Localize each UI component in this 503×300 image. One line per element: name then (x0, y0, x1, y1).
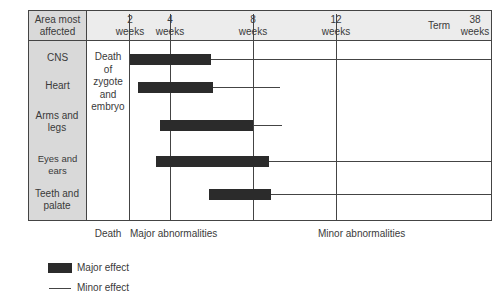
death-line: embryo (87, 101, 129, 114)
week-2-number: 2 (114, 14, 146, 26)
area-column-divider (86, 10, 87, 221)
legend-minor-label: Minor effect (77, 282, 129, 294)
week-12-unit: weeks (320, 26, 352, 38)
area-label-eyes-ears: Eyes and ears (29, 153, 86, 177)
week-4-line (170, 14, 171, 221)
area-text: Eyes and ears (38, 153, 78, 176)
area-text: Arms and legs (36, 110, 79, 133)
area-text: CNS (47, 52, 68, 63)
legend-major-text: Major effect (77, 262, 129, 273)
term-label: Term (424, 20, 454, 32)
heart-major-effect-bar (138, 82, 213, 93)
arms-legs-minor-effect-line (253, 125, 282, 126)
term-weeks-label: 38 weeks (458, 14, 492, 38)
legend-minor-swatch (49, 288, 71, 289)
legend-minor-text: Minor effect (77, 282, 129, 293)
week-8-label: 8 weeks (237, 14, 269, 38)
area-text: Heart (45, 80, 69, 91)
footer-death-label: Death (88, 228, 128, 240)
death-line: zygote (87, 76, 129, 89)
header-divider (28, 40, 492, 41)
area-label-teeth-palate: Teeth and palate (31, 188, 83, 212)
footer-death-text: Death (95, 228, 122, 239)
week-2-label: 2 weeks (114, 14, 146, 38)
term-weeks-unit: weeks (458, 26, 492, 38)
footer-major-label: Major abnormalities (130, 228, 230, 240)
footer-minor-label: Minor abnormalities (318, 228, 418, 240)
footer-minor-text: Minor abnormalities (318, 228, 405, 239)
week-2-unit: weeks (114, 26, 146, 38)
heart-minor-effect-line (213, 87, 280, 88)
week-2-line (129, 14, 130, 221)
area-label-heart: Heart (29, 80, 86, 92)
legend-major-label: Major effect (77, 262, 129, 274)
area-text: Teeth and palate (35, 188, 79, 211)
week-12-label: 12 weeks (320, 14, 352, 38)
cns-minor-effect-line (211, 59, 492, 60)
teeth-palate-minor-effect-line (271, 194, 492, 195)
term-weeks-number: 38 (458, 14, 492, 26)
area-header-label: Area most affected (35, 14, 81, 37)
death-line: Death (87, 51, 129, 64)
teeth-palate-major-effect-bar (209, 189, 271, 200)
week-8-unit: weeks (237, 26, 269, 38)
eyes-ears-major-effect-bar (156, 156, 269, 167)
area-label-cns: CNS (29, 52, 86, 64)
arms-legs-major-effect-bar (160, 120, 253, 131)
cns-major-effect-bar (130, 54, 211, 65)
death-line: and (87, 89, 129, 102)
week-8-number: 8 (237, 14, 269, 26)
death-line: of (87, 64, 129, 77)
death-of-zygote-text: Death of zygote and embryo (87, 51, 129, 114)
area-header: Area most affected (29, 14, 86, 38)
term-text: Term (428, 20, 450, 31)
week-12-number: 12 (320, 14, 352, 26)
legend-major-swatch (48, 263, 72, 273)
eyes-ears-minor-effect-line (269, 161, 492, 162)
week-12-line (336, 14, 337, 221)
area-label-arms-legs: Arms and legs (31, 110, 83, 134)
footer-major-text: Major abnormalities (130, 228, 217, 239)
week-4-label: 4 weeks (154, 14, 186, 38)
week-4-number: 4 (154, 14, 186, 26)
week-4-unit: weeks (154, 26, 186, 38)
